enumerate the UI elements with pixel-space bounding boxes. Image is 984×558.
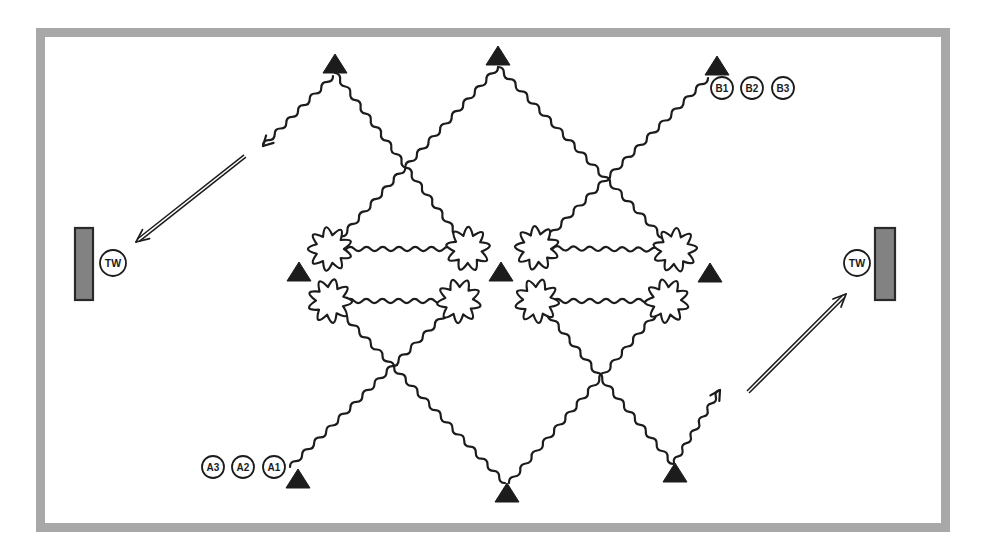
tw-wall-right [875, 228, 895, 300]
site-B1-label: B1 [716, 83, 729, 94]
site-A1-label: A1 [268, 462, 281, 473]
site-B3-label: B3 [777, 83, 790, 94]
tw-wall-left [75, 228, 93, 300]
site-A3-label: A3 [207, 462, 220, 473]
figure-canvas: TWTWB1B2B3A3A2A1 [0, 0, 984, 558]
site-B2-label: B2 [746, 83, 759, 94]
chain-arrowhead-icon [719, 390, 720, 401]
tw-wall-left-label: TW [105, 257, 121, 269]
site-A2-label: A2 [237, 462, 250, 473]
network-schematic-diagram: TWTWB1B2B3A3A2A1 [0, 0, 984, 558]
tw-wall-right-label: TW [849, 257, 865, 269]
